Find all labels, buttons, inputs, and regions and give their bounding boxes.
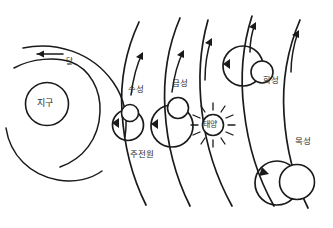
sun-ray (193, 115, 200, 118)
mercury-body (122, 105, 139, 122)
sun-deferent-arc (200, 20, 232, 206)
label-mercury: 수성 (128, 85, 144, 94)
label-moon: 달 (66, 58, 73, 66)
label-earth: 지구 (37, 99, 53, 108)
label-mars: 화성 (263, 76, 279, 85)
astronomy-diagram: 지구 달 수성 금성 태양 화성 목성 주전원 (0, 0, 333, 228)
jupiter-deferent-arrow-shaft (291, 32, 298, 72)
venus-body (168, 98, 189, 119)
sun-ray (221, 106, 225, 112)
label-jupiter: 목성 (295, 137, 311, 146)
mars-deferent-arc (242, 16, 274, 206)
jupiter-body (280, 165, 315, 200)
sun-ray (193, 132, 200, 135)
sun-deferent-arrow-head (205, 38, 212, 46)
label-epicycle: 주전원 (130, 150, 155, 159)
sun-deferent-arrow-shaft (205, 40, 211, 80)
sun-ray (226, 115, 233, 118)
sun-ray (226, 132, 233, 135)
label-venus: 금성 (172, 79, 188, 88)
moon-direction-arrow-head (37, 51, 44, 58)
label-sun: 태양 (203, 121, 217, 129)
earth-outer-ring-arc (6, 128, 102, 181)
sun-ray (201, 138, 205, 144)
diagram-canvas (0, 0, 333, 228)
sun-ray (221, 138, 225, 144)
